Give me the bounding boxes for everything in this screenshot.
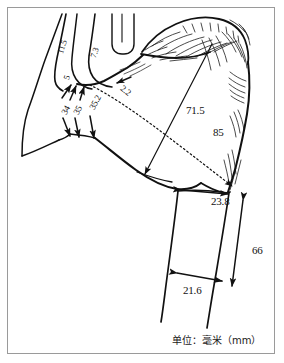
dimension-line-66 bbox=[232, 200, 243, 286]
dimension-label-d-85: 85 bbox=[213, 127, 224, 138]
dimension-arc-85 bbox=[90, 85, 232, 186]
leader-7-3 bbox=[80, 87, 84, 100]
leader-5 bbox=[70, 86, 76, 100]
strap-outline bbox=[112, 14, 134, 54]
leader-34 bbox=[63, 118, 70, 136]
body-contours bbox=[22, 14, 250, 328]
shoulder-hatching bbox=[145, 20, 250, 70]
chest-lower-line bbox=[70, 134, 95, 138]
dimension-label-d-21-6: 21.6 bbox=[183, 285, 201, 296]
deltoid-hatching bbox=[224, 72, 246, 190]
dimension-label-d-23-8: 23.8 bbox=[211, 196, 229, 207]
dimension-annotations bbox=[62, 44, 243, 286]
anatomical-sketch bbox=[0, 0, 284, 363]
waist-line bbox=[22, 140, 59, 156]
dimension-label-d-71-5: 71.5 bbox=[186, 105, 204, 116]
armpit-curve bbox=[95, 138, 201, 189]
arm-inner-edge bbox=[161, 191, 178, 322]
leader-35-2 bbox=[90, 116, 94, 138]
arm-outer-edge bbox=[207, 193, 229, 328]
left-flank bbox=[59, 134, 70, 140]
dimension-label-d-66: 66 bbox=[252, 245, 263, 256]
figure-root: 11.57.352.2343535.271.58523.86621.6 单位：毫… bbox=[0, 0, 284, 363]
units-caption: 单位：毫米（mm） bbox=[172, 336, 261, 346]
